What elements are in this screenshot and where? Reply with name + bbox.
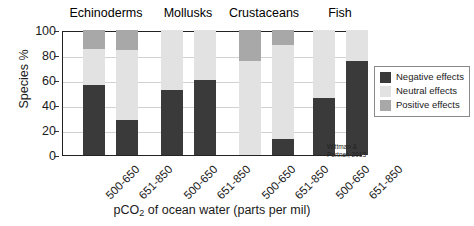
bar-segment-negative bbox=[161, 90, 183, 155]
bar-crustaceans-500-650 bbox=[239, 30, 261, 155]
x-tick-label-fish-500-650: 500-650 bbox=[333, 163, 371, 201]
bar-mollusks-651-850 bbox=[194, 30, 216, 155]
y-tick-mark-40 bbox=[54, 106, 59, 107]
bar-segment-positive bbox=[83, 30, 105, 49]
legend-swatch-negative-icon bbox=[380, 72, 391, 83]
bar-fish-651-850 bbox=[346, 30, 368, 155]
x-tick-label-fish-651-850: 651-850 bbox=[366, 163, 404, 201]
citation-line-2: Portner, 2013 bbox=[327, 151, 371, 159]
plot-area bbox=[62, 31, 362, 156]
x-tick-label-mollusks-500-650: 500-650 bbox=[181, 163, 219, 201]
legend-item-neutral: Neutral effects bbox=[380, 86, 464, 97]
chart-legend: Negative effects Neutral effects Positiv… bbox=[374, 66, 470, 117]
legend-swatch-positive-icon bbox=[380, 100, 391, 111]
legend-label-positive: Positive effects bbox=[396, 100, 460, 110]
x-axis-title-post: of ocean water (parts per mil) bbox=[144, 203, 310, 217]
y-tick-label-60: 60 bbox=[22, 75, 56, 88]
y-tick-mark-100 bbox=[54, 31, 59, 32]
legend-label-negative: Negative effects bbox=[396, 72, 464, 82]
x-tick-label-mollusks-651-850: 651-850 bbox=[214, 163, 252, 201]
citation-line-1: Wittman & bbox=[327, 143, 371, 151]
bar-mollusks-500-650 bbox=[161, 30, 183, 155]
bar-fish-500-650 bbox=[313, 30, 335, 155]
x-axis-title-pre: pCO bbox=[114, 203, 140, 217]
x-tick-label-echinoderms-651-850: 651-850 bbox=[136, 163, 174, 201]
chart-figure: Echinoderms Mollusks Crustaceans Fish Sp… bbox=[0, 0, 474, 226]
y-tick-mark-0 bbox=[54, 156, 59, 157]
y-tick-mark-80 bbox=[54, 56, 59, 57]
y-tick-label-0: 0 bbox=[22, 150, 56, 163]
y-axis-ticks: 100 80 60 40 20 0 bbox=[18, 0, 56, 226]
bar-segment-neutral bbox=[161, 30, 183, 90]
x-tick-label-echinoderms-500-650: 500-650 bbox=[103, 163, 141, 201]
y-tick-label-40: 40 bbox=[22, 100, 56, 113]
bar-segment-neutral bbox=[313, 30, 335, 98]
x-tick-label-crustaceans-651-850: 651-850 bbox=[292, 163, 330, 201]
legend-item-positive: Positive effects bbox=[380, 100, 464, 111]
x-tick-label-crustaceans-500-650: 500-650 bbox=[259, 163, 297, 201]
bar-segment-neutral bbox=[346, 30, 368, 61]
bar-segment-positive bbox=[272, 30, 294, 45]
group-header-row: Echinoderms Mollusks Crustaceans Fish bbox=[62, 6, 362, 26]
group-header-fish: Fish bbox=[328, 6, 352, 20]
bar-segment-neutral bbox=[194, 30, 216, 80]
group-header-mollusks: Mollusks bbox=[164, 6, 213, 20]
group-header-echinoderms: Echinoderms bbox=[70, 6, 143, 20]
bar-segment-negative bbox=[272, 139, 294, 155]
bar-segment-positive bbox=[116, 30, 138, 50]
bar-segment-neutral bbox=[116, 50, 138, 120]
bar-echinoderms-651-850 bbox=[116, 30, 138, 155]
y-tick-label-80: 80 bbox=[22, 50, 56, 63]
x-axis-title: pCO2 of ocean water (parts per mil) bbox=[62, 203, 362, 218]
bar-segment-negative bbox=[346, 61, 368, 155]
bar-segment-neutral bbox=[83, 49, 105, 85]
legend-label-neutral: Neutral effects bbox=[396, 86, 457, 96]
y-tick-mark-20 bbox=[54, 131, 59, 132]
source-citation: Wittman & Portner, 2013 bbox=[327, 143, 371, 159]
bar-segment-negative bbox=[194, 80, 216, 155]
bar-segment-negative bbox=[83, 85, 105, 155]
y-tick-mark-60 bbox=[54, 81, 59, 82]
bar-segment-neutral bbox=[239, 61, 261, 155]
bars-layer bbox=[63, 32, 361, 155]
y-tick-label-100: 100 bbox=[22, 25, 56, 38]
bar-segment-positive bbox=[239, 30, 261, 61]
bar-crustaceans-651-850 bbox=[272, 30, 294, 155]
y-tick-label-20: 20 bbox=[22, 125, 56, 138]
group-header-crustaceans: Crustaceans bbox=[229, 6, 299, 20]
bar-segment-neutral bbox=[272, 45, 294, 139]
bar-echinoderms-500-650 bbox=[83, 30, 105, 155]
legend-item-negative: Negative effects bbox=[380, 72, 464, 83]
bar-segment-negative bbox=[116, 120, 138, 155]
legend-swatch-neutral-icon bbox=[380, 86, 391, 97]
